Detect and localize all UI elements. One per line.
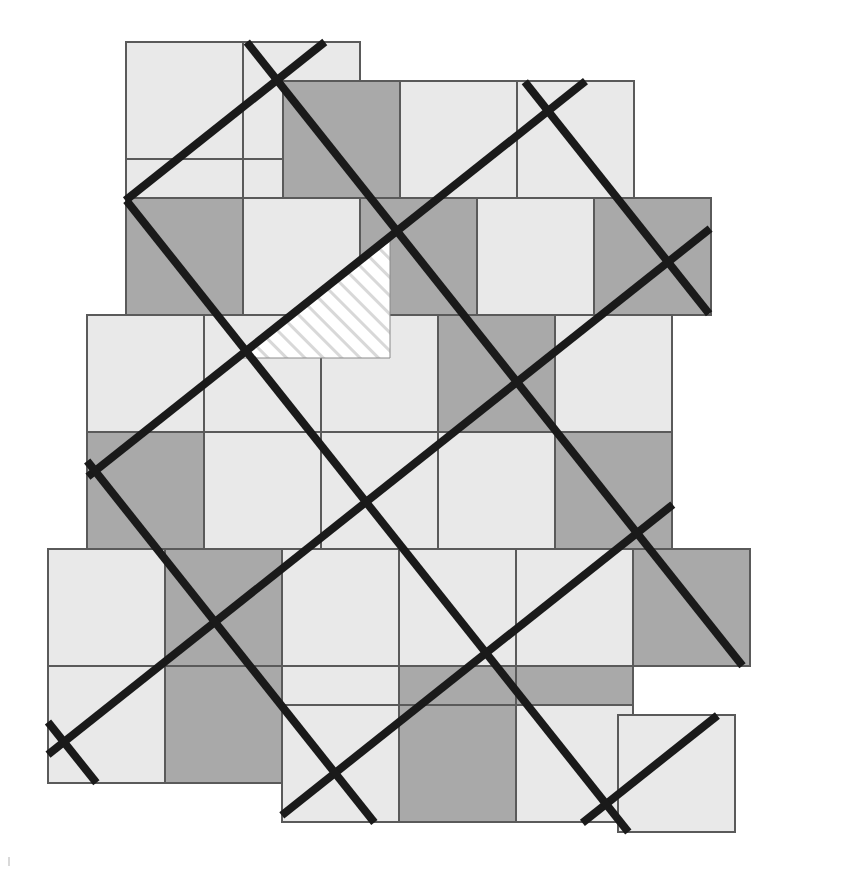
tile-square <box>438 315 555 432</box>
tile-square <box>282 549 399 666</box>
tile-square <box>618 715 735 832</box>
scan-speck <box>8 857 10 866</box>
tile-square <box>399 705 516 822</box>
tile-square <box>516 549 633 666</box>
tile-square <box>126 42 243 159</box>
tile-square <box>87 315 204 432</box>
tile-square <box>48 666 165 783</box>
tile-square <box>126 198 243 315</box>
tile-square <box>48 549 165 666</box>
tiling-diagram <box>0 0 861 884</box>
tile-square <box>204 432 321 549</box>
figure-root <box>0 0 861 884</box>
tile-square <box>283 81 400 198</box>
tile-square <box>438 432 555 549</box>
tile-square <box>555 315 672 432</box>
tile-square <box>477 198 594 315</box>
